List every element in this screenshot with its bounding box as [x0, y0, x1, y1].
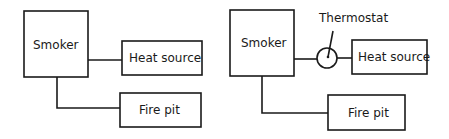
edge-smoker-fire-pit	[57, 77, 120, 108]
diagram-canvas: Smoker Heat source Fire pit Smoker Therm…	[0, 0, 449, 139]
node-fire-pit: Fire pit	[120, 93, 201, 127]
node-smoker: Smoker	[230, 10, 294, 76]
node-label: Thermostat	[318, 11, 388, 25]
node-label: Fire pit	[348, 106, 389, 120]
node-label: Smoker	[33, 38, 79, 52]
node-label: Fire pit	[139, 103, 180, 117]
node-label: Smoker	[241, 36, 287, 50]
node-fire-pit: Fire pit	[328, 95, 405, 130]
node-label: Heat source	[358, 50, 430, 64]
edge-smoker-fire-pit	[262, 76, 328, 113]
node-heat-source: Heat source	[352, 40, 430, 74]
diagram-with-thermostat: Smoker Thermostat Heat source Fire pit	[230, 10, 430, 130]
node-smoker: Smoker	[24, 11, 88, 77]
node-label: Heat source	[129, 51, 201, 65]
thermostat-circle	[317, 48, 337, 68]
diagram-without-thermostat: Smoker Heat source Fire pit	[24, 11, 202, 127]
node-heat-source: Heat source	[122, 41, 202, 75]
